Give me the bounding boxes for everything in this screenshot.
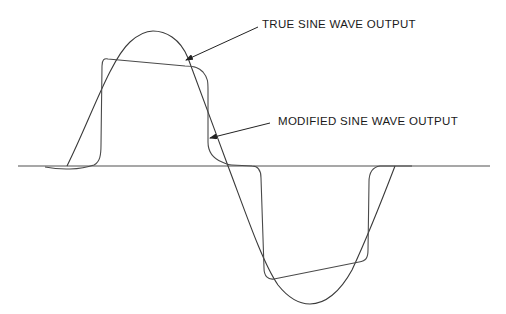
modified-sine-label: MODIFIED SINE WAVE OUTPUT: [278, 115, 458, 127]
modified-sine-arrow: [210, 123, 270, 138]
true-sine-arrow: [186, 27, 258, 60]
true-sine-wave: [67, 31, 395, 304]
true-sine-label: TRUE SINE WAVE OUTPUT: [262, 18, 416, 30]
waveform-diagram: [0, 0, 506, 314]
